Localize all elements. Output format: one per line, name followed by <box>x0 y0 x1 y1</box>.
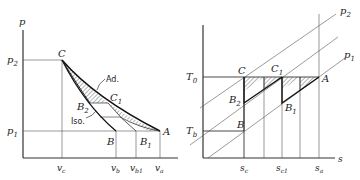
ad-leader <box>97 79 105 90</box>
p1-label: p1 <box>7 125 18 139</box>
tick-vc: vc <box>57 163 66 174</box>
tick-sc1: sc1 <box>276 163 288 174</box>
p-axis-label: p <box>19 16 26 27</box>
point-B2: B2 <box>76 101 89 115</box>
point-A: A <box>321 73 329 84</box>
tick-sc: sc <box>240 163 249 174</box>
point-C1: C1 <box>271 63 283 77</box>
point-B2: B2 <box>228 94 241 108</box>
point-B: B <box>106 136 114 147</box>
s-axis-label: s <box>338 154 343 164</box>
Tb-label: Tb <box>186 125 198 139</box>
stage1-curve <box>62 60 90 103</box>
tick-va: va <box>155 163 164 174</box>
point-B1: B1 <box>139 136 152 150</box>
tick-vb: vb <box>111 163 120 174</box>
thermo-diagrams: p p2 p1 Ad. Iso. C C1 B2 B B1 <box>0 0 360 180</box>
point-C1: C1 <box>110 92 122 106</box>
pv-diagram: p p2 p1 Ad. Iso. C C1 B2 B B1 <box>7 16 178 174</box>
hatch-tri-1 <box>244 77 264 91</box>
hatch-tri-3 <box>282 77 300 90</box>
isobar-p2-label: p2 <box>340 5 351 19</box>
point-B: B <box>236 119 244 130</box>
isobar-p1-label: p1 <box>344 49 355 63</box>
iso-label: Iso. <box>71 117 85 126</box>
ts-diagram: s p2 p1 T0 Tb C C1 A B2 B1 B <box>186 5 355 174</box>
point-A: A <box>162 126 170 137</box>
ad-label: Ad. <box>106 75 119 84</box>
tick-vb1: vb1 <box>130 163 143 174</box>
isobar-p2 <box>200 14 336 108</box>
p2-label: p2 <box>7 54 18 68</box>
T0-label: T0 <box>186 71 198 85</box>
point-C: C <box>58 48 66 59</box>
point-B1: B1 <box>284 102 297 116</box>
tick-sa: sa <box>315 163 324 174</box>
point-C: C <box>238 65 246 76</box>
